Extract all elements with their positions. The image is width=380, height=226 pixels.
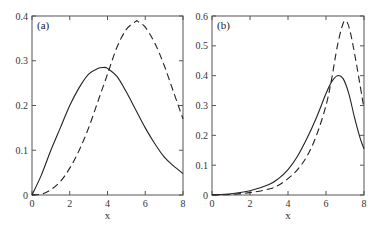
chart-panel-b: 0246800.10.20.30.40.50.6x(b): [196, 11, 367, 222]
chart-panel-a: 0246800.10.20.30.4x(a): [16, 11, 186, 222]
x-tick-label: 4: [105, 198, 110, 209]
x-axis-label: x: [285, 209, 291, 221]
x-tick-label: 2: [67, 198, 72, 209]
plot-frame: [212, 16, 364, 195]
y-tick-label: 0.5: [196, 40, 209, 51]
y-tick-label: 0.4: [196, 70, 209, 81]
x-axis-label: x: [105, 209, 111, 221]
y-tick-label: 0.6: [196, 11, 209, 22]
plot-frame: [32, 16, 183, 195]
y-tick-label: 0.1: [16, 145, 29, 156]
y-tick-label: 0: [23, 190, 28, 201]
y-tick-label: 0.2: [196, 130, 209, 141]
y-tick-label: 0.3: [196, 100, 209, 111]
y-tick-label: 0.4: [16, 11, 29, 22]
x-tick-label: 6: [324, 198, 329, 209]
series-line-solid: [32, 67, 183, 195]
panel-label: (b): [217, 19, 230, 32]
series-line-dashed: [32, 20, 183, 195]
x-tick-label: 0: [210, 198, 215, 209]
panel-label: (a): [37, 19, 50, 32]
y-tick-label: 0.1: [196, 160, 209, 171]
chart-canvas: 0246800.10.20.30.4x(a)0246800.10.20.30.4…: [0, 0, 380, 226]
y-tick-label: 0.2: [16, 100, 29, 111]
series-line-solid: [212, 75, 364, 195]
x-tick-label: 0: [30, 198, 35, 209]
x-tick-label: 8: [362, 198, 367, 209]
x-tick-label: 4: [286, 198, 291, 209]
x-tick-label: 8: [181, 198, 186, 209]
y-tick-label: 0.3: [16, 55, 29, 66]
y-tick-label: 0: [203, 190, 208, 201]
x-tick-label: 2: [248, 198, 253, 209]
x-tick-label: 6: [143, 198, 148, 209]
